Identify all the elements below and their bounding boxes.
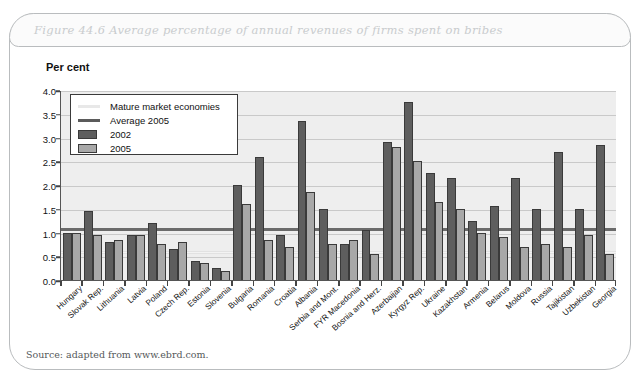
- bar-2002: [362, 230, 371, 280]
- bar-2002: [212, 268, 221, 280]
- bar-2002: [319, 209, 328, 280]
- bar-2005: [370, 254, 379, 280]
- y-axis-tick-label: 1.5: [34, 204, 56, 215]
- bar-group: [403, 90, 424, 280]
- bar-2002: [468, 221, 477, 280]
- legend-swatch: [78, 130, 106, 139]
- bar-2005: [413, 161, 422, 280]
- bar-2005: [392, 147, 401, 280]
- legend-item: Average 2005: [78, 114, 237, 128]
- legend-item: 2005: [78, 142, 237, 156]
- bar-group: [509, 90, 530, 280]
- bar-group: [488, 90, 509, 280]
- legend-label: 2002: [110, 129, 131, 140]
- legend-item: 2002: [78, 128, 237, 142]
- chart-legend: Mature market economiesAverage 200520022…: [70, 94, 238, 155]
- bar-group: [296, 90, 317, 280]
- bar-2005: [157, 244, 166, 280]
- bar-2002: [404, 102, 413, 280]
- legend-item: Mature market economies: [78, 100, 237, 114]
- bar-2005: [435, 202, 444, 280]
- bar-2002: [63, 233, 72, 281]
- bar-2002: [298, 121, 307, 280]
- legend-label: 2005: [110, 143, 131, 154]
- bar-group: [317, 90, 338, 280]
- bar-2002: [447, 178, 456, 280]
- bar-2002: [255, 157, 264, 281]
- y-axis-unit-label: Per cent: [46, 61, 89, 73]
- bar-2002: [554, 152, 563, 280]
- bar-2002: [596, 145, 605, 280]
- bar-2005: [93, 235, 102, 280]
- bar-2005: [456, 209, 465, 280]
- y-axis-tick-label: 3.5: [34, 109, 56, 120]
- bar-2002: [532, 209, 541, 280]
- bar-2005: [477, 233, 486, 281]
- y-axis-tick-labels: 4.03.53.02.52.01.51.00.50.0: [32, 91, 56, 281]
- bar-2002: [340, 244, 349, 280]
- legend-label: Mature market economies: [110, 101, 220, 112]
- bar-2005: [349, 240, 358, 280]
- bar-2005: [499, 237, 508, 280]
- figure-title-band: Figure 44.6 Average percentage of annual…: [9, 13, 631, 47]
- y-axis-tick-label: 1.0: [34, 228, 56, 239]
- bar-2002: [105, 242, 114, 280]
- bar-2005: [114, 240, 123, 280]
- bar-2005: [563, 247, 572, 280]
- legend-marker-icon: [78, 144, 97, 153]
- bar-2002: [276, 235, 285, 280]
- bar-2005: [242, 204, 251, 280]
- bar-2002: [84, 211, 93, 280]
- bar-2005: [72, 233, 81, 281]
- bar-2005: [264, 240, 273, 280]
- bar-2005: [285, 247, 294, 280]
- bar-group: [552, 90, 573, 280]
- bar-2005: [178, 242, 187, 280]
- legend-swatch: [78, 119, 106, 122]
- bar-2005: [221, 271, 230, 281]
- bar-2002: [490, 206, 499, 280]
- bar-group: [253, 90, 274, 280]
- bar-group: [595, 90, 616, 280]
- bar-2005: [541, 244, 550, 280]
- bar-2005: [328, 244, 337, 280]
- bar-2002: [383, 142, 392, 280]
- bar-group: [360, 90, 381, 280]
- page-title: Figure 44.6 Average percentage of annual…: [34, 23, 503, 37]
- y-axis-tick-label: 2.5: [34, 157, 56, 168]
- bar-2002: [511, 178, 520, 280]
- bar-group: [274, 90, 295, 280]
- bar-2002: [148, 223, 157, 280]
- source-note: Source: adapted from www.ebrd.com.: [26, 349, 209, 360]
- figure-page: Figure 44.6 Average percentage of annual…: [0, 0, 641, 383]
- bar-2002: [575, 209, 584, 280]
- legend-label: Average 2005: [110, 115, 169, 126]
- bar-group: [573, 90, 594, 280]
- bar-group: [445, 90, 466, 280]
- bar-2002: [191, 261, 200, 280]
- bar-2002: [426, 173, 435, 280]
- bar-2005: [306, 192, 315, 280]
- y-axis-tick-label: 0.0: [34, 276, 56, 287]
- bar-group: [467, 90, 488, 280]
- y-axis-tick-label: 4.0: [34, 86, 56, 97]
- bar-2002: [127, 235, 136, 280]
- bar-2002: [233, 185, 242, 280]
- bar-2002: [169, 249, 178, 280]
- y-axis-tick-label: 0.5: [34, 252, 56, 263]
- bar-2005: [605, 254, 614, 280]
- bar-group: [338, 90, 359, 280]
- bar-2005: [584, 235, 593, 280]
- bar-group: [424, 90, 445, 280]
- y-axis-tick-label: 3.0: [34, 133, 56, 144]
- plot-outer: Mature market economiesAverage 200520022…: [60, 91, 616, 282]
- bar-group: [531, 90, 552, 280]
- bar-2005: [200, 263, 209, 280]
- y-axis-tick-label: 2.0: [34, 181, 56, 192]
- legend-marker-icon: [78, 105, 100, 108]
- legend-swatch: [78, 105, 106, 108]
- legend-swatch: [78, 144, 106, 153]
- bar-2005: [520, 247, 529, 280]
- plot-area: Mature market economiesAverage 200520022…: [60, 91, 616, 281]
- bar-group: [381, 90, 402, 280]
